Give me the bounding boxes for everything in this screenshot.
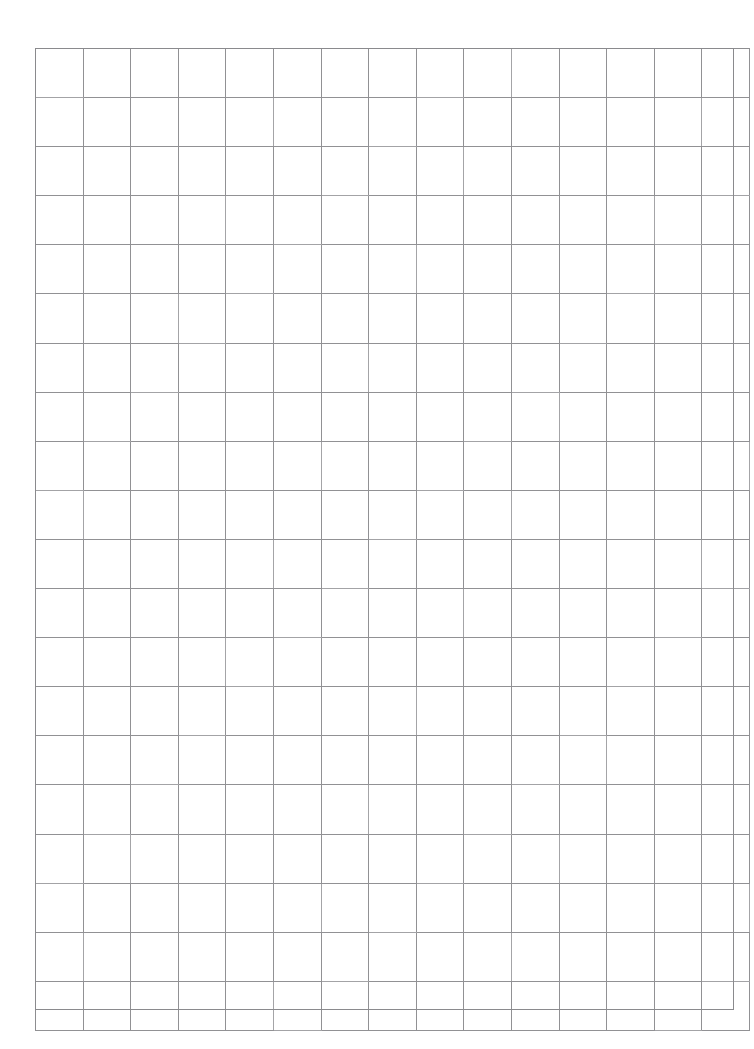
grid-row (36, 589, 750, 638)
grid-cell (131, 490, 179, 539)
grid-row (36, 147, 750, 196)
grid-cell (654, 49, 702, 98)
grid-cell (36, 589, 84, 638)
grid-cell (273, 736, 321, 785)
grid-cell (369, 981, 417, 1030)
grid-cell (464, 589, 512, 638)
grid-cell (416, 589, 464, 638)
grid-cell (369, 343, 417, 392)
grid-cell (416, 98, 464, 147)
grid-cell (654, 589, 702, 638)
grid-cell (702, 196, 750, 245)
grid-cell (416, 441, 464, 490)
grid-cell (178, 883, 226, 932)
grid-cell (702, 49, 750, 98)
grid-cell (83, 245, 131, 294)
grid-cell (464, 245, 512, 294)
grid-cell (83, 196, 131, 245)
grid-cell (226, 638, 274, 687)
scanned-page (0, 0, 754, 1049)
grid-cell (321, 441, 369, 490)
grid-cell (321, 736, 369, 785)
grid-cell (511, 98, 559, 147)
grid-cell (83, 834, 131, 883)
grid-cell (226, 147, 274, 196)
grid-cell (511, 49, 559, 98)
grid-cell (559, 589, 607, 638)
grid-cell (464, 638, 512, 687)
grid-row (36, 883, 750, 932)
grid-cell (321, 49, 369, 98)
grid-cell (559, 392, 607, 441)
grid-cell (131, 196, 179, 245)
grid-cell (511, 539, 559, 588)
grid-cell (654, 343, 702, 392)
grid-cell (511, 490, 559, 539)
grid-body (36, 49, 750, 1031)
grid-cell (83, 539, 131, 588)
grid-cell (226, 883, 274, 932)
grid-cell (464, 736, 512, 785)
grid-cell (131, 589, 179, 638)
grid-cell (226, 294, 274, 343)
grid-cell (226, 539, 274, 588)
grid-cell (464, 981, 512, 1030)
grid-cell (226, 834, 274, 883)
grid-row (36, 245, 750, 294)
grid-cell (464, 98, 512, 147)
grid-cell (273, 343, 321, 392)
grid-cell (226, 245, 274, 294)
grid-cell (607, 245, 655, 294)
grid-cell (369, 638, 417, 687)
grid-cell (702, 490, 750, 539)
grid-cell (131, 98, 179, 147)
grid-cell (416, 245, 464, 294)
grid-cell (416, 490, 464, 539)
grid-cell (273, 638, 321, 687)
grid-cell (702, 245, 750, 294)
grid-cell (369, 294, 417, 343)
grid-cell (607, 736, 655, 785)
grid-cell (559, 490, 607, 539)
grid-cell (702, 392, 750, 441)
grid-cell (464, 49, 512, 98)
grid-cell (702, 932, 750, 981)
grid-cell (511, 245, 559, 294)
grid-cell (83, 883, 131, 932)
grid-cell (511, 638, 559, 687)
grid-cell (83, 343, 131, 392)
grid-cell (36, 785, 84, 834)
grid-cell (321, 490, 369, 539)
grid-cell (273, 98, 321, 147)
grid-cell (321, 638, 369, 687)
grid-cell (36, 883, 84, 932)
page-caption (0, 0, 1, 1)
grid-cell (273, 981, 321, 1030)
grid-cell (416, 883, 464, 932)
grid-cell (464, 147, 512, 196)
grid-cell (178, 98, 226, 147)
grid-cell (559, 834, 607, 883)
grid-cell (131, 294, 179, 343)
grid-cell (702, 883, 750, 932)
grid-cell (607, 539, 655, 588)
grid-cell (178, 981, 226, 1030)
grid-cell (131, 687, 179, 736)
grid-cell (702, 785, 750, 834)
grid-cell (131, 883, 179, 932)
grid-cell (83, 441, 131, 490)
grid-cell (654, 785, 702, 834)
grid-cell (416, 736, 464, 785)
grid-cell (369, 785, 417, 834)
grid-cell (226, 490, 274, 539)
grid-cell (36, 196, 84, 245)
grid-cell (654, 687, 702, 736)
grid-cell (226, 932, 274, 981)
grid-cell (273, 147, 321, 196)
grid-cell (369, 932, 417, 981)
grid-cell (131, 834, 179, 883)
grid-table (35, 48, 750, 1031)
grid-cell (464, 687, 512, 736)
grid-cell (607, 981, 655, 1030)
grid-cell (321, 687, 369, 736)
